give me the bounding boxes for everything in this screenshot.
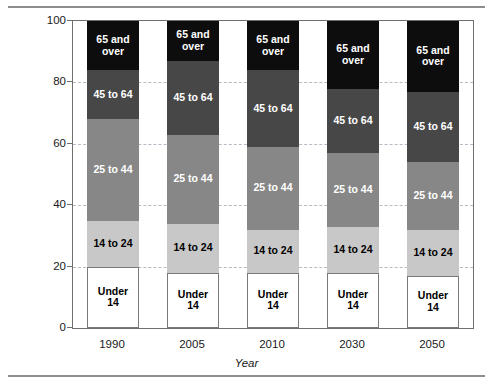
bar-segment[interactable]: 14 to 24 [247,230,299,273]
bar-segment-label: 65 andover [256,34,289,58]
x-axis-tick-label: 1990 [99,338,125,350]
bar-segment[interactable]: 45 to 64 [407,92,459,163]
bar-segment-label: 65 andover [96,34,129,58]
bar-segment[interactable]: 65 andover [167,21,219,61]
chart-figure: Percentage of Population in Age Category… [0,0,493,383]
bar-segment-label: 25 to 44 [333,184,372,196]
bar-segment-label: 45 to 64 [333,115,372,127]
bar-segment[interactable]: 25 to 44 [247,147,299,230]
stacked-bar[interactable]: Under1414 to 2425 to 4445 to 6465 andove… [407,21,459,328]
bar-segment[interactable]: Under14 [87,267,139,328]
bar-segment-label: 25 to 44 [253,182,292,194]
stacked-bar[interactable]: Under1414 to 2425 to 4445 to 6465 andove… [87,21,139,328]
bar-segment-label: 14 to 24 [333,244,372,256]
bar-segment-label: 45 to 64 [173,92,212,104]
bottom-divider-rule [8,375,485,377]
bar-segment-label: Under14 [178,289,208,313]
bar-segment[interactable]: 14 to 24 [87,221,139,267]
y-axis-tick-label: 0 [4,321,66,333]
bar-segment-label: 65 andover [176,29,209,53]
y-axis-tick-label: 40 [4,198,66,210]
bar-segment[interactable]: 25 to 44 [87,119,139,220]
bar-segment-label: 14 to 24 [93,238,132,250]
bar-segment[interactable]: 65 andover [407,21,459,92]
y-axis-tick-label: 80 [4,75,66,87]
bar-segment-label: 25 to 44 [93,164,132,176]
stacked-bar[interactable]: Under1414 to 2425 to 4445 to 6465 andove… [327,21,379,328]
bar-segment[interactable]: Under14 [407,276,459,328]
bar-segment-label: Under14 [98,286,128,310]
stacked-bar[interactable]: Under1414 to 2425 to 4445 to 6465 andove… [247,21,299,328]
bar-segment[interactable]: 14 to 24 [407,230,459,276]
y-axis-tick-label: 60 [4,137,66,149]
x-axis-tick-label: 2005 [179,338,205,350]
bar-segment-label: 45 to 64 [253,103,292,115]
bar-segment[interactable]: 65 andover [247,21,299,70]
x-axis-tick-label: 2030 [339,338,365,350]
bar-segment[interactable]: 25 to 44 [407,162,459,230]
bar-segment-label: 45 to 64 [413,121,452,133]
bar-segment[interactable]: 14 to 24 [327,227,379,273]
bar-segment-label: 25 to 44 [413,190,452,202]
bar-segment[interactable]: 45 to 64 [327,89,379,153]
bar-segment-label: 65 andover [336,43,369,67]
bar-segment-label: Under14 [418,290,448,314]
stacked-bar[interactable]: Under1414 to 2425 to 4445 to 6465 andove… [167,21,219,328]
bar-segment-label: 14 to 24 [253,245,292,257]
bar-segment[interactable]: 45 to 64 [247,70,299,147]
bar-segment[interactable]: Under14 [247,273,299,328]
bar-segment[interactable]: 25 to 44 [167,135,219,224]
bar-segment-label: Under14 [338,289,368,313]
bar-segment[interactable]: 45 to 64 [87,70,139,119]
bar-segment[interactable]: 45 to 64 [167,61,219,135]
bar-segment-label: 14 to 24 [413,247,452,259]
bar-segment[interactable]: 65 andover [327,21,379,89]
top-divider-rule [8,6,485,8]
y-axis-tick-label: 100 [4,14,66,26]
y-axis-tick-label: 20 [4,260,66,272]
bar-segment-label: 25 to 44 [173,173,212,185]
bar-segment[interactable]: 65 andover [87,21,139,70]
bar-segment[interactable]: 14 to 24 [167,224,219,273]
bar-segment[interactable]: 25 to 44 [327,153,379,227]
x-axis-tick-label: 2050 [419,338,445,350]
bar-segment[interactable]: Under14 [327,273,379,328]
bar-segment-label: 45 to 64 [93,89,132,101]
bar-segment-label: 65 andover [416,45,449,69]
plot-area: Under1414 to 2425 to 4445 to 6465 andove… [72,20,474,329]
x-axis-tick-label: 2010 [259,338,285,350]
bar-segment-label: Under14 [258,289,288,313]
bar-segment[interactable]: Under14 [167,273,219,328]
bar-segment-label: 14 to 24 [173,242,212,254]
x-axis-title: Year [0,357,493,369]
